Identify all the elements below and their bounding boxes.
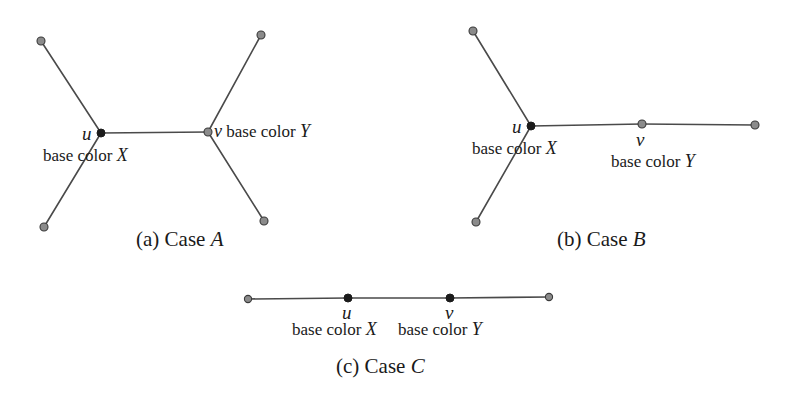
node-c-vertex-u bbox=[344, 294, 352, 302]
label-a-base-color-y: v base color Y bbox=[214, 122, 310, 140]
node-a-vertex-v bbox=[204, 128, 212, 136]
base-color-letter: X bbox=[546, 138, 557, 158]
label-a-base-color-x-text: base color X bbox=[43, 146, 128, 165]
base-color-letter: Y bbox=[472, 319, 482, 339]
caption-case-b-text: (b) Case B bbox=[557, 227, 646, 251]
caption-case-letter: B bbox=[633, 227, 646, 251]
edge-a-leaf-tl-u bbox=[41, 41, 101, 133]
label-a-vertex-v: v bbox=[214, 121, 222, 141]
edge-a-v-leaf-tr bbox=[208, 35, 261, 132]
edge-b-leaf-tl-u bbox=[473, 31, 531, 126]
edge-c-v-leaf-r bbox=[450, 297, 549, 298]
node-a-leaf-top-right bbox=[257, 31, 265, 39]
node-b-leaf-bottom-left bbox=[472, 218, 480, 226]
node-a-leaf-top-left bbox=[37, 37, 45, 45]
node-c-leaf-right bbox=[545, 293, 552, 300]
caption-case-letter: C bbox=[411, 354, 425, 378]
label-c-base-color-y-text: base color Y bbox=[398, 320, 482, 339]
label-c-base-color-x: base color X bbox=[292, 320, 377, 338]
label-a-vertex-u: u bbox=[82, 124, 92, 143]
node-a-vertex-u bbox=[97, 129, 105, 137]
caption-case-a: (a) Case A bbox=[136, 229, 223, 250]
label-b-vertex-v: v bbox=[636, 130, 644, 149]
graph-drawing bbox=[0, 0, 787, 403]
caption-case-letter: A bbox=[211, 227, 224, 251]
label-b-vertex-u: u bbox=[512, 117, 522, 136]
label-c-base-color-x-text: base color X bbox=[292, 320, 377, 339]
node-b-leaf-top-left bbox=[469, 27, 477, 35]
node-c-vertex-v bbox=[446, 294, 454, 302]
edge-b-v-leaf-r bbox=[642, 124, 755, 125]
node-b-vertex-v bbox=[638, 120, 646, 128]
base-color-letter: X bbox=[117, 145, 128, 165]
caption-case-c-text: (c) Case C bbox=[336, 354, 425, 378]
figure-container: u base color X v base color Y (a) Case A… bbox=[0, 0, 787, 403]
base-color-letter: Y bbox=[685, 151, 695, 171]
edge-a-u-v bbox=[101, 132, 208, 133]
caption-case-b: (b) Case B bbox=[557, 229, 646, 250]
label-b-base-color-y-text: base color Y bbox=[611, 152, 695, 171]
label-b-base-color-x: base color X bbox=[472, 139, 557, 157]
caption-case-a-text: (a) Case A bbox=[136, 227, 223, 251]
label-c-base-color-y: base color Y bbox=[398, 320, 482, 338]
base-color-letter: X bbox=[366, 319, 377, 339]
edge-c-leaf-l-u bbox=[248, 298, 348, 299]
label-b-base-color-x-text: base color X bbox=[472, 139, 557, 158]
node-b-vertex-u bbox=[527, 122, 535, 130]
edge-a-v-leaf-br bbox=[208, 132, 264, 221]
node-a-leaf-bottom-left bbox=[40, 223, 48, 231]
node-a-leaf-bottom-right bbox=[260, 217, 268, 225]
edge-b-u-v bbox=[531, 124, 642, 126]
caption-case-c: (c) Case C bbox=[336, 356, 425, 377]
node-b-leaf-right bbox=[751, 121, 759, 129]
case-c-graph bbox=[244, 293, 552, 302]
label-a-base-color-x: base color X bbox=[43, 146, 128, 164]
node-c-leaf-left bbox=[244, 295, 251, 302]
label-b-base-color-y: base color Y bbox=[611, 152, 695, 170]
label-a-base-color-y-text: base color Y bbox=[226, 122, 310, 141]
base-color-letter: Y bbox=[300, 121, 310, 141]
